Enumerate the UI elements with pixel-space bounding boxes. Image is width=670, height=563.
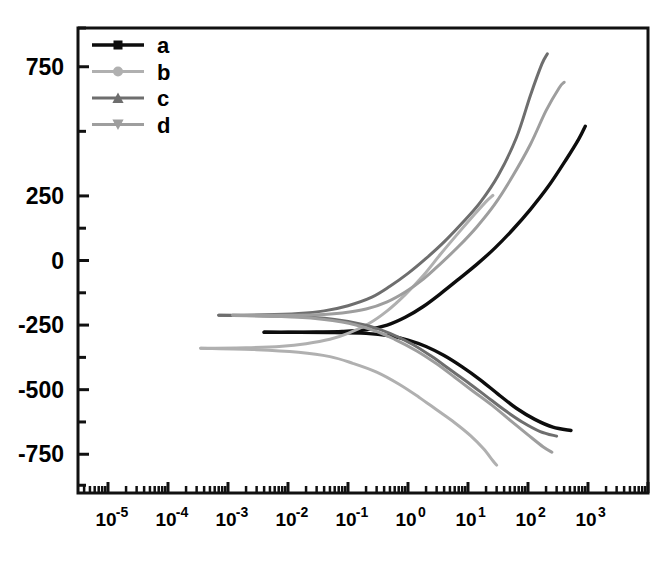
data-marker-b [0, 0, 4, 4]
data-marker-a [0, 0, 7, 7]
series-d [233, 82, 564, 452]
legend-label-a: a [157, 33, 170, 58]
data-marker-b [0, 0, 4, 4]
data-marker-a [0, 0, 7, 7]
legend-label-b: b [157, 60, 170, 85]
legend-item-c[interactable]: c [92, 86, 169, 111]
data-marker-b [0, 0, 4, 4]
y-tick-label: -250 [18, 312, 64, 338]
data-marker-b [0, 0, 4, 4]
x-tick-label: 10-4 [155, 504, 188, 530]
data-marker-a [0, 0, 7, 7]
svg-text:10: 10 [515, 509, 536, 530]
data-marker-a [0, 0, 7, 7]
data-marker-b [0, 0, 4, 4]
svg-text:-3: -3 [236, 504, 249, 520]
data-marker-a [0, 0, 7, 7]
data-marker-a [0, 0, 7, 7]
data-marker-a [0, 0, 7, 7]
data-marker-b [0, 0, 4, 4]
legend-label-d: d [157, 113, 170, 138]
chart-figure: 7502500-250-500-75010-510-410-310-210-11… [0, 0, 670, 563]
svg-text:10: 10 [95, 509, 116, 530]
svg-text:10: 10 [455, 509, 476, 530]
data-marker-b [0, 0, 4, 4]
data-marker-a [0, 0, 7, 7]
data-marker-b [0, 0, 4, 4]
series-markers-a-upper [0, 0, 7, 7]
chart-canvas: 7502500-250-500-75010-510-410-310-210-11… [0, 0, 670, 563]
data-marker-b [0, 0, 4, 4]
data-marker-a [0, 0, 7, 7]
y-tick-label: 750 [26, 54, 64, 80]
y-tick-label: -750 [18, 441, 64, 467]
data-marker-b [0, 0, 4, 4]
legend: abcd [92, 33, 170, 138]
data-marker-b [0, 0, 4, 4]
data-marker-b [0, 0, 4, 4]
data-marker-a [0, 0, 7, 7]
data-marker-b [0, 0, 4, 4]
svg-text:3: 3 [598, 504, 606, 520]
data-marker-b [0, 0, 4, 4]
data-marker-a [0, 0, 7, 7]
svg-text:-1: -1 [356, 504, 369, 520]
data-marker-b [0, 0, 4, 4]
data-marker-b [0, 0, 4, 4]
data-marker-a [0, 0, 7, 7]
data-marker-a [0, 0, 7, 7]
data-marker-a [0, 0, 7, 7]
data-marker-a [0, 0, 7, 7]
x-tick-label: 10-2 [275, 504, 308, 530]
data-marker-a [0, 0, 7, 7]
svg-text:10: 10 [215, 509, 236, 530]
series-line-c-upper [219, 54, 548, 315]
series-markers-b-upper [0, 0, 4, 4]
legend-item-a[interactable]: a [92, 33, 170, 58]
svg-text:0: 0 [418, 504, 426, 520]
data-marker-b [0, 0, 4, 4]
data-marker-a [0, 0, 7, 7]
legend-label-c: c [157, 86, 169, 111]
data-marker-b [0, 0, 4, 4]
data-marker-b [0, 0, 4, 4]
data-marker-a [0, 0, 7, 7]
data-marker-a [0, 0, 7, 7]
legend-item-d[interactable]: d [92, 113, 170, 138]
data-marker-a [0, 0, 7, 7]
legend-marker-a [114, 41, 123, 50]
x-tick-label: 100 [395, 504, 426, 530]
data-marker-a [0, 0, 7, 7]
data-marker-a [0, 0, 7, 7]
series-line-a-upper [264, 126, 585, 332]
data-marker-a [0, 0, 7, 7]
series-markers-a-lower [0, 0, 7, 7]
y-tick-label: 0 [51, 248, 64, 274]
series-line-b-lower [201, 348, 497, 465]
legend-marker-b [113, 67, 123, 77]
data-marker-a [0, 0, 7, 7]
data-marker-a [0, 0, 7, 7]
data-marker-a [0, 0, 7, 7]
data-marker-b [0, 0, 4, 4]
legend-item-b[interactable]: b [92, 60, 170, 85]
series-layer [0, 0, 585, 465]
data-marker-a [0, 0, 7, 7]
data-marker-a [0, 0, 7, 7]
svg-text:10: 10 [275, 509, 296, 530]
series-a [0, 0, 585, 430]
x-tick-label: 102 [515, 504, 546, 530]
data-marker-b [0, 0, 4, 4]
svg-text:10: 10 [335, 509, 356, 530]
svg-text:2: 2 [538, 504, 546, 520]
data-marker-a [0, 0, 7, 7]
data-marker-b [0, 0, 4, 4]
x-tick-label: 10-5 [95, 504, 128, 530]
x-axis: 10-510-410-310-210-1100101102103 [84, 482, 648, 530]
svg-text:-4: -4 [176, 504, 189, 520]
x-tick-label: 10-3 [215, 504, 248, 530]
svg-text:-2: -2 [296, 504, 309, 520]
data-marker-a [0, 0, 7, 7]
data-marker-a [0, 0, 7, 7]
data-marker-a [0, 0, 7, 7]
